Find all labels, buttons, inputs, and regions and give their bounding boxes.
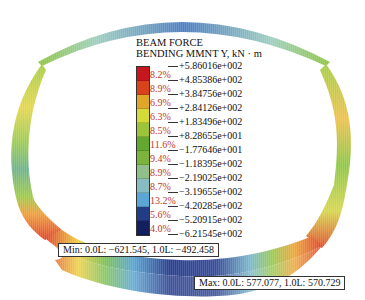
legend-value: +4.85386e+002: [168, 75, 242, 85]
legend-subtitle: BENDING MMNT Y, kN · m: [136, 48, 276, 59]
legend-value: +1.83496e+002: [168, 117, 242, 127]
legend-value: −1.18395e+002: [168, 159, 242, 169]
color-scale-bar: [136, 66, 150, 236]
legend-value: −4.20285e+002: [168, 201, 242, 211]
legend-value: +2.84126e+002: [168, 103, 242, 113]
swatch-7: [137, 151, 149, 165]
legend-value: +5.86016e+002: [168, 61, 242, 71]
swatch-2: [137, 81, 149, 95]
swatch-6: [137, 137, 149, 151]
legend-value: +8.28655e+001: [168, 131, 242, 141]
legend-value: +3.84756e+002: [168, 89, 242, 99]
legend-value: −1.77646e+001: [168, 145, 242, 155]
swatch-12: [137, 221, 149, 235]
contour-legend: BEAM FORCE BENDING MMNT Y, kN · m 8.2% 8…: [136, 37, 276, 61]
swatch-11: [137, 207, 149, 221]
swatch-5: [137, 123, 149, 137]
max-value-callout: Max: 0.0L: 577.077, 1.0L: 570.729: [194, 276, 345, 290]
legend-title: BEAM FORCE: [136, 37, 276, 48]
swatch-9: [137, 179, 149, 193]
swatch-3: [137, 95, 149, 109]
right-wall-band: [306, 64, 351, 248]
legend-value: −5.20915e+002: [168, 215, 242, 225]
left-wall-band: [11, 64, 62, 240]
swatch-1: [137, 67, 149, 81]
swatch-8: [137, 165, 149, 179]
legend-value: −2.19025e+002: [168, 173, 242, 183]
min-value-callout: Min: 0.0L: −621.545, 1.0L: −492.458: [58, 243, 219, 257]
legend-value: −3.19655e+002: [168, 187, 242, 197]
legend-value: −6.21545e+002: [168, 229, 242, 239]
swatch-10: [137, 193, 149, 207]
swatch-4: [137, 109, 149, 123]
